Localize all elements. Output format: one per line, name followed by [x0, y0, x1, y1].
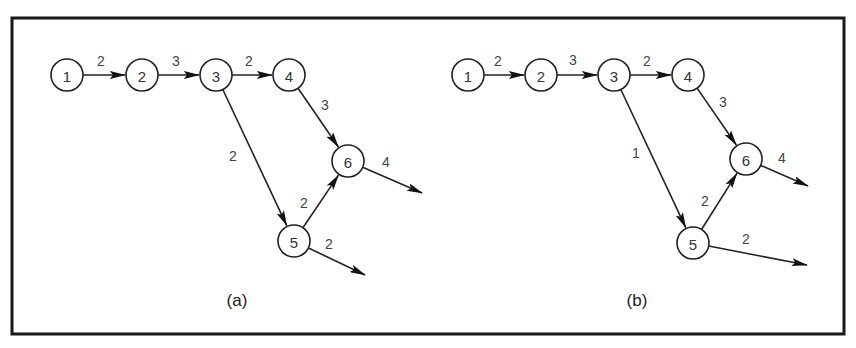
node-5: 5 [278, 225, 310, 257]
edge-arrow-6-out [363, 167, 422, 193]
node-6: 6 [730, 143, 762, 175]
edge-weight-label: 2 [494, 53, 502, 69]
edge-arrow-6-out [761, 165, 808, 186]
edge-weight-label: 2 [245, 53, 253, 69]
node-label: 4 [684, 68, 692, 85]
edge-arrow-4-6 [298, 88, 338, 147]
panel-label-a: (a) [227, 291, 248, 310]
edge-weight-label: 2 [229, 148, 237, 164]
edge-weight-label: 4 [382, 154, 390, 170]
node-label: 3 [212, 68, 220, 85]
edge-weight-label: 2 [701, 193, 709, 209]
node-label: 6 [344, 154, 352, 171]
node-4: 4 [273, 59, 305, 91]
node-3: 3 [200, 59, 232, 91]
node-6: 6 [332, 145, 364, 177]
edge-arrow-5-6 [303, 175, 339, 228]
node-1: 1 [51, 59, 83, 91]
edge-weight-label: 3 [321, 97, 329, 113]
edge-weight-label: 2 [742, 231, 750, 247]
edge-weight-label: 1 [632, 145, 640, 161]
edge-weight-label: 3 [569, 52, 577, 68]
node-4: 4 [672, 59, 704, 91]
edge-weight-label: 3 [172, 53, 180, 69]
node-label: 2 [138, 68, 146, 85]
node-label: 1 [464, 68, 472, 85]
node-label: 4 [285, 68, 293, 85]
node-1: 1 [452, 59, 484, 91]
edge-arrow-5-out [709, 246, 807, 265]
edge-weight-label: 2 [643, 53, 651, 69]
node-label: 1 [63, 68, 71, 85]
node-label: 2 [537, 68, 545, 85]
node-3: 3 [598, 59, 630, 91]
edge-arrow-5-out [308, 248, 365, 275]
node-5: 5 [677, 227, 709, 259]
edge-weight-label: 2 [300, 195, 308, 211]
node-label: 3 [610, 68, 618, 85]
edge-weight-label: 4 [778, 150, 786, 166]
panel-label-b: (b) [627, 291, 648, 310]
panel-a: 23232242123465(a) [51, 53, 422, 310]
edge-weight-label: 3 [719, 94, 727, 110]
node-2: 2 [126, 59, 158, 91]
panel-b: 23231242123465(b) [452, 52, 808, 310]
node-2: 2 [525, 59, 557, 91]
edge-arrow-4-6 [697, 88, 736, 145]
edge-weight-label: 2 [97, 53, 105, 69]
edge-arrow-3-5 [621, 89, 686, 227]
node-label: 5 [689, 236, 697, 253]
node-label: 6 [742, 152, 750, 169]
node-label: 5 [290, 234, 298, 251]
edge-weight-label: 2 [325, 236, 333, 252]
panels-container: 23232242123465(a)23231242123465(b) [51, 52, 808, 310]
network-diagram: 23232242123465(a)23231242123465(b) [0, 0, 856, 348]
